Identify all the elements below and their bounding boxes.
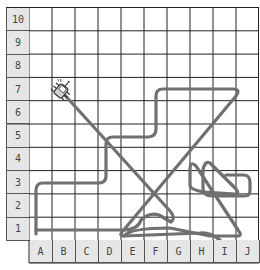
col-label-b: B (53, 240, 76, 263)
grid-svg (0, 0, 260, 270)
col-label-g: G (168, 240, 191, 263)
row-label-3: 3 (6, 171, 29, 194)
row-label-10: 10 (6, 8, 29, 31)
col-label-f: F (145, 240, 168, 263)
row-label-5: 5 (6, 125, 29, 148)
col-label-a: A (30, 240, 53, 263)
col-label-h: H (191, 240, 214, 263)
col-label-i: I (214, 240, 237, 263)
row-label-6: 6 (6, 101, 29, 124)
row-label-8: 8 (6, 55, 29, 78)
col-label-d: D (99, 240, 122, 263)
game-board: 10 9 8 7 6 5 4 3 2 1 A B C D E F G H I J (0, 0, 260, 270)
col-label-e: E (122, 240, 145, 263)
row-label-1: 1 (6, 218, 29, 241)
row-label-9: 9 (6, 31, 29, 54)
row-label-2: 2 (6, 194, 29, 217)
col-label-j: J (237, 240, 260, 263)
row-label-7: 7 (6, 78, 29, 101)
row-label-4: 4 (6, 148, 29, 171)
col-label-c: C (76, 240, 99, 263)
